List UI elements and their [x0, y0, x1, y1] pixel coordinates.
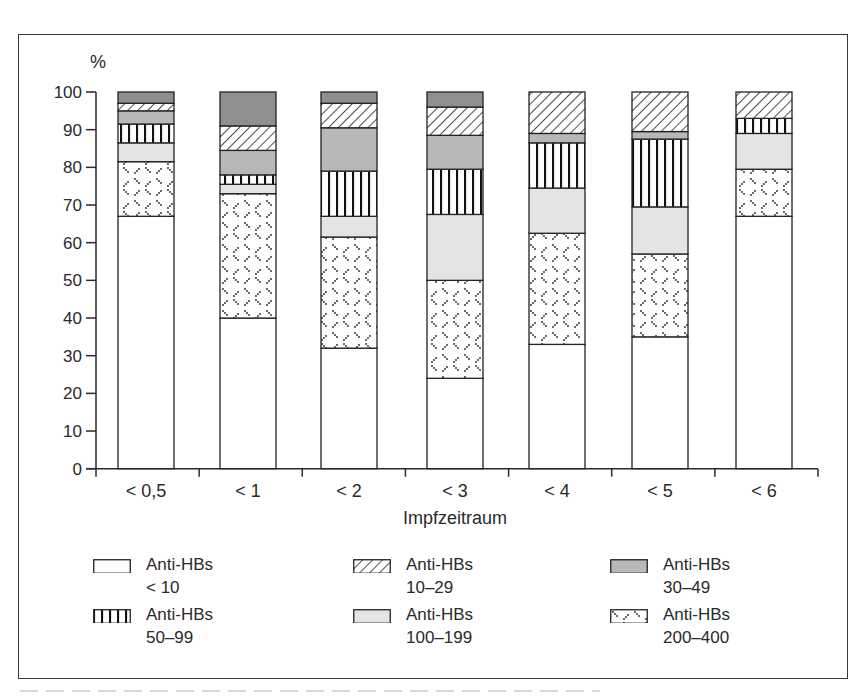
legend-label: Anti-HBs< 10 — [146, 553, 213, 599]
bar-segment-r50 — [321, 171, 377, 216]
legend-item: Anti-HBs200–400 — [610, 603, 730, 649]
y-tick-label: 100 — [54, 83, 82, 102]
x-tick-label: < 6 — [751, 481, 777, 501]
y-tick-label: 60 — [63, 234, 82, 253]
x-tick-label: < 0,5 — [126, 481, 167, 501]
bar-segment-dark — [321, 92, 377, 103]
bar-segment-r200 — [220, 194, 276, 318]
bar-segment-lt10 — [220, 318, 276, 469]
bar-segment-dark — [427, 92, 483, 107]
bar-4 — [529, 92, 585, 469]
legend-swatch-dots — [610, 609, 648, 623]
y-tick-label: 10 — [63, 422, 82, 441]
bar-segment-r30 — [118, 111, 174, 124]
bar-segment-r100 — [220, 184, 276, 193]
bar-segment-r50 — [529, 143, 585, 188]
bar-segment-r10 — [529, 92, 585, 133]
bar-segment-dark — [118, 92, 174, 103]
bar-segment-r10 — [118, 103, 174, 111]
bar-segment-r100 — [321, 216, 377, 237]
y-tick-label: 50 — [63, 271, 82, 290]
y-unit-label: % — [90, 52, 106, 72]
bar-segment-r10 — [321, 103, 377, 127]
bar-segment-r100 — [632, 207, 688, 254]
legend-swatch-hatch — [353, 559, 391, 573]
bar-segment-r30 — [321, 128, 377, 171]
bar-segment-r100 — [427, 214, 483, 280]
y-tick-label: 40 — [63, 309, 82, 328]
legend-item: Anti-HBs10–29 — [353, 553, 473, 599]
x-tick-label: < 1 — [235, 481, 261, 501]
bar-segment-r200 — [321, 237, 377, 348]
y-tick-label: 30 — [63, 347, 82, 366]
bar-3 — [427, 92, 483, 469]
bar-segment-r50 — [118, 124, 174, 143]
legend-item: Anti-HBs< 10 — [93, 553, 213, 599]
bar-6 — [736, 92, 792, 469]
legend-item: Anti-HBs50–99 — [93, 603, 213, 649]
bar-segment-r30 — [632, 132, 688, 140]
legend-swatch-lightgray — [353, 609, 391, 623]
legend-swatch-vlines — [93, 609, 131, 623]
legend-label: Anti-HBs10–29 — [406, 553, 473, 599]
legend-label: Anti-HBs50–99 — [146, 603, 213, 649]
legend-item: Anti-HBs100–199 — [353, 603, 473, 649]
x-tick-label: < 3 — [442, 481, 468, 501]
x-tick-label: < 5 — [647, 481, 673, 501]
bar-segment-r10 — [632, 92, 688, 132]
bar-segment-r10 — [736, 92, 792, 118]
bar-segment-r10 — [427, 107, 483, 135]
legend-swatch-blank — [93, 559, 131, 573]
bar-segment-lt10 — [632, 337, 688, 469]
bar-segment-r100 — [529, 188, 585, 233]
bar-segment-lt10 — [427, 378, 483, 468]
bar-segment-r50 — [220, 175, 276, 184]
bar-segment-r10 — [220, 126, 276, 150]
bar-2 — [321, 92, 377, 469]
bar-segment-lt10 — [736, 216, 792, 468]
legend-label: Anti-HBs200–400 — [663, 603, 730, 649]
bar-segment-r200 — [632, 254, 688, 337]
bar-segment-r200 — [427, 280, 483, 378]
y-axis: 0102030405060708090100 — [54, 83, 96, 479]
bar-segment-r200 — [529, 233, 585, 344]
bar-segment-r30 — [427, 135, 483, 169]
x-axis: < 0,5< 1< 2< 3< 4< 5< 6 — [86, 469, 818, 501]
bar-0 — [118, 92, 174, 469]
cut-off-caption — [20, 690, 600, 692]
x-tick-label: < 2 — [336, 481, 362, 501]
bar-segment-r100 — [118, 143, 174, 162]
y-tick-label: 20 — [63, 384, 82, 403]
y-tick-label: 70 — [63, 196, 82, 215]
legend-swatch-midgray — [610, 559, 648, 573]
bar-segment-lt10 — [321, 348, 377, 469]
bar-segment-r30 — [529, 133, 585, 142]
bar-segment-lt10 — [118, 216, 174, 468]
bar-segment-r50 — [736, 118, 792, 133]
legend-item: Anti-HBs30–49 — [610, 553, 730, 599]
x-tick-label: < 4 — [544, 481, 570, 501]
bar-5 — [632, 92, 688, 469]
legend-label: Anti-HBs100–199 — [406, 603, 473, 649]
legend-label: Anti-HBs30–49 — [663, 553, 730, 599]
x-axis-title: Impfzeitraum — [403, 508, 507, 528]
bar-segment-dark — [220, 92, 276, 126]
bar-1 — [220, 92, 276, 469]
bar-segment-r200 — [118, 162, 174, 217]
bar-segment-lt10 — [529, 344, 585, 468]
bar-segment-r50 — [632, 139, 688, 207]
bar-segment-r50 — [427, 169, 483, 214]
y-tick-label: 90 — [63, 121, 82, 140]
bar-segment-r200 — [736, 169, 792, 216]
y-tick-label: 80 — [63, 158, 82, 177]
bars — [118, 92, 792, 469]
bar-segment-r30 — [220, 150, 276, 174]
y-tick-label: 0 — [73, 460, 82, 479]
bar-segment-r100 — [736, 133, 792, 169]
